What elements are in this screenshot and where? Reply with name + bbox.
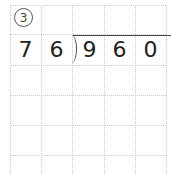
grid-line — [10, 155, 166, 156]
dividend-digit: 9 — [74, 34, 105, 64]
dividend-digit: 6 — [104, 34, 135, 64]
grid-line — [10, 125, 166, 126]
dividend-digit: 0 — [135, 34, 166, 64]
division-bracket-curve — [66, 35, 77, 63]
grid-line — [10, 95, 166, 96]
grid-line — [104, 5, 105, 174]
divisor-digit: 7 — [10, 34, 41, 64]
grid-line — [166, 5, 167, 174]
grid-line — [135, 5, 136, 174]
grid-line — [41, 5, 42, 174]
grid-line — [10, 5, 166, 6]
grid-line — [72, 5, 73, 174]
division-bracket-top — [73, 35, 171, 36]
problem-number-label: 3 — [14, 8, 33, 27]
worksheet-grid — [10, 5, 166, 174]
grid-line — [10, 65, 166, 66]
grid-line — [10, 5, 11, 174]
